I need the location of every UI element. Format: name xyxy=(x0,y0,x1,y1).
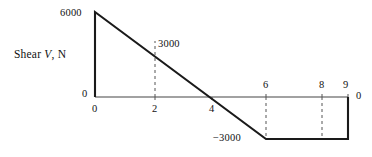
value-label-3000: 3000 xyxy=(158,38,180,49)
y-axis-label-symbol: V xyxy=(44,48,51,60)
x-tick-label-2: 2 xyxy=(152,103,157,114)
shear-diagram-plot xyxy=(0,0,372,157)
x-tick-label-9: 9 xyxy=(343,79,348,90)
x-tick-label-0: 0 xyxy=(92,103,97,114)
x-tick-label-6: 6 xyxy=(263,79,268,90)
value-label-zero-left: 0 xyxy=(82,88,87,99)
value-label-negative-3000: −3000 xyxy=(213,132,241,143)
shear-curve xyxy=(95,12,348,139)
x-tick-label-8: 8 xyxy=(319,79,324,90)
y-axis-label-suffix: , N xyxy=(52,48,67,60)
y-axis-label-prefix: Shear xyxy=(14,48,44,60)
y-axis-label: Shear V, N xyxy=(14,48,66,60)
value-label-zero-right: 0 xyxy=(356,90,361,101)
shear-diagram-figure: Shear V, N 6000 3000 0 −3000 0 0 2 4 6 8… xyxy=(0,0,372,157)
value-label-6000: 6000 xyxy=(60,7,82,18)
x-tick-label-4: 4 xyxy=(209,103,214,114)
